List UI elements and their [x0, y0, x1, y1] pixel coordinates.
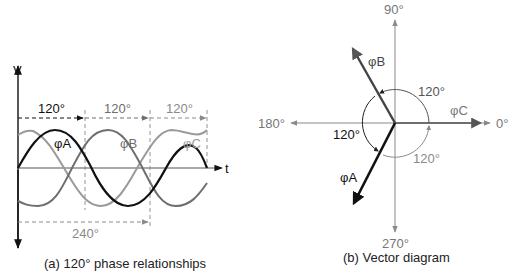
waveform-caption: (a) 120° phase relationships — [44, 256, 207, 271]
wave-label-c: φC — [183, 136, 201, 151]
axis-label-270: 270° — [382, 236, 409, 251]
phasor-label-c: φC — [450, 103, 468, 118]
shift-label-1: 120° — [38, 101, 65, 116]
vector-diagram: 90° 180° 0° 270° φC φB φA 120° 120° 120°… — [258, 2, 508, 265]
wave-label-a: φA — [54, 136, 71, 151]
axis-label-90: 90° — [384, 2, 404, 17]
vector-caption: (b) Vector diagram — [343, 250, 450, 265]
angle-label-lower: 120° — [413, 151, 440, 166]
axis-label-180: 180° — [258, 116, 285, 131]
waveform-chart: V t 120° 120° 120° 240° φA φB φC (a) 120… — [13, 63, 229, 271]
angle-label-left: 120° — [333, 127, 360, 142]
phasor-label-b: φB — [368, 54, 385, 69]
t-axis-label: t — [225, 161, 229, 176]
angle-label-upper: 120° — [418, 84, 445, 99]
span-label-240: 240° — [72, 226, 99, 241]
phasor-label-a: φA — [340, 170, 357, 185]
axis-label-0: 0° — [496, 116, 508, 131]
phasor-a — [354, 123, 395, 203]
v-axis-label: V — [13, 63, 22, 78]
wave-label-b: φB — [120, 136, 137, 151]
shift-label-3: 120° — [166, 101, 193, 116]
shift-label-2: 120° — [104, 101, 131, 116]
three-phase-diagram: V t 120° 120° 120° 240° φA φB φC (a) 120… — [0, 0, 517, 279]
